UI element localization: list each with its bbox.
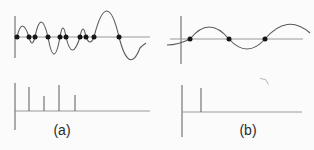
sampling-spectra-figure: (a) (b) [0,0,314,150]
sample-dot [227,37,232,42]
sample-dot [78,35,83,40]
sample-dot [92,35,97,40]
sample-dot [33,35,38,40]
sample-dot [188,37,193,42]
sample-dot [58,35,63,40]
sample-dot [117,35,122,40]
sample-dot [263,37,268,42]
panel-a-signal-plot [15,11,151,60]
sample-dot [64,35,69,40]
sample-dot [84,35,89,40]
panel-b-signal-waveform [167,24,310,49]
sample-dot [46,35,51,40]
sample-dot [27,35,32,40]
panel-b-signal-plot [167,16,310,64]
panel-a-spectrum-plot [15,83,150,130]
panel-a-label: (a) [53,122,70,138]
scan-artifact-mark [260,79,269,85]
figure-canvas: (a) (b) [0,0,314,150]
sample-dot [15,35,20,40]
panel-b-label: (b) [239,122,256,138]
panel-a-spectral-lines [29,85,75,111]
